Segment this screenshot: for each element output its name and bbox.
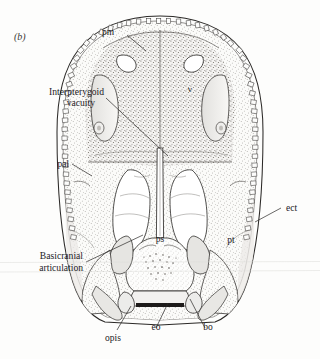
skull-palate-drawing: (b) pm Interpterygoid vacuity pal v ect … (0, 0, 320, 359)
label-ps: ps (156, 234, 165, 244)
label-interpterygoid-line1: Interpterygoid (49, 86, 104, 97)
skull-interior (64, 22, 256, 320)
panel-label: (b) (14, 31, 26, 43)
label-ect: ect (286, 203, 297, 213)
label-interpterygoid-line2: vacuity (67, 97, 95, 108)
palatine-foramen-right-inner (219, 125, 223, 130)
label-bo: bo (203, 322, 213, 332)
label-v: v (188, 84, 193, 94)
palatine-foramen-left-inner (97, 125, 101, 130)
label-eo: eo (152, 322, 161, 332)
label-pm: pm (102, 27, 115, 37)
label-pal: pal (57, 159, 69, 169)
foramen-magnum-shadow (136, 303, 184, 307)
label-basicranial-line1: Basicranial (40, 250, 83, 261)
figure-container: (b) pm Interpterygoid vacuity pal v ect … (0, 0, 320, 359)
label-opis: opis (105, 333, 121, 343)
label-pt: pt (227, 235, 235, 245)
